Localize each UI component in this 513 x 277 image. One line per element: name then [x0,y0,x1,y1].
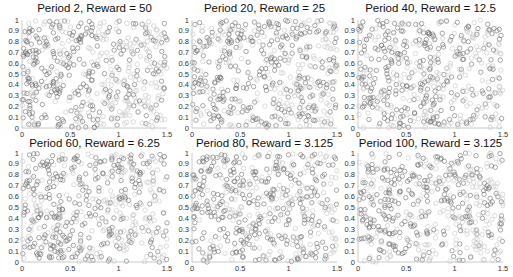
y-tick-label: 0.5 [345,203,355,212]
subplot-title: Period 100, Reward = 3.125 [358,137,503,149]
x-tick-label: 1 [453,264,457,273]
y-tick-label: 0 [351,258,355,267]
y-tick-label: 0.8 [345,170,355,179]
y-tick-label: 0.6 [345,192,355,201]
y-tick-label: 0.4 [345,214,355,223]
x-tick-label: 1.5 [498,264,508,273]
y-tick-label: 0.1 [345,247,355,256]
data-points [357,151,505,264]
y-tick-label: 0.9 [345,159,355,168]
x-tick-label: 0.5 [401,264,411,273]
y-tick-label: 0.2 [345,236,355,245]
y-tick-label: 0.3 [345,225,355,234]
x-tick-label: 0 [356,264,360,273]
y-tick-label: 0.7 [345,181,355,190]
subplot-period-100: 00.10.20.30.40.50.60.70.80.9100.511.5 Pe… [0,0,513,277]
y-tick-label: 1 [351,149,355,158]
